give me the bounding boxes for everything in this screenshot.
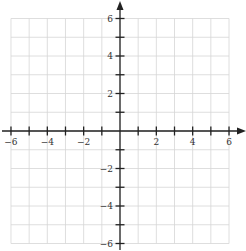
y-tick-label: 6 <box>107 14 113 24</box>
y-axis-arrow-icon <box>117 1 124 10</box>
y-tick-label: 2 <box>107 89 113 99</box>
y-tick-label: −2 <box>100 164 113 174</box>
x-tick-label: −6 <box>4 137 18 147</box>
axes <box>2 1 246 250</box>
y-tick-label: 4 <box>107 51 113 61</box>
x-tick-label: 4 <box>190 137 196 147</box>
coordinate-plane: −6−4−2246642−2−4−6 <box>0 0 246 251</box>
x-tick-label: 2 <box>153 137 159 147</box>
x-tick-label: 6 <box>226 137 232 147</box>
y-tick-label: −6 <box>100 239 114 249</box>
x-tick-label: −2 <box>77 137 90 147</box>
y-tick-label: −4 <box>100 201 114 211</box>
x-axis-arrow-icon <box>237 128 246 135</box>
x-tick-label: −4 <box>41 137 55 147</box>
